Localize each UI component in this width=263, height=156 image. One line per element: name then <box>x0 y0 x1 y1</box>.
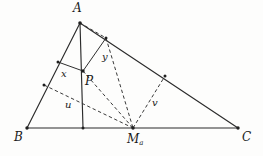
label-segment-u: u <box>65 100 71 110</box>
label-midpoint-ma: Ma <box>127 133 143 147</box>
dashed-footAC-to-Ma-line <box>106 38 133 128</box>
foot-altitude-on-BC-dot <box>82 127 85 130</box>
label-point-p: P <box>85 75 93 87</box>
segment-u-line <box>44 85 133 128</box>
foot-v-on-AC-dot <box>164 75 167 78</box>
label-segment-v: v <box>152 98 158 108</box>
segment-v-line <box>133 76 165 128</box>
side-AB-line <box>27 23 80 128</box>
side-AC-line <box>80 23 238 128</box>
label-vertex-a: A <box>73 2 82 14</box>
foot-x-on-AB-dot <box>57 61 60 64</box>
point-Ma-dot <box>131 126 134 129</box>
point-P-dot <box>81 69 84 72</box>
foot-y-on-AC-dot <box>105 37 108 40</box>
geometry-figure: A B C P Ma x y u v <box>0 0 263 156</box>
label-midpoint-ma-base: M <box>127 132 139 146</box>
label-segment-x: x <box>61 69 67 79</box>
label-vertex-c: C <box>242 131 251 143</box>
altitude-from-A-line <box>80 23 83 128</box>
label-segment-y: y <box>102 52 108 62</box>
foot-u-on-AB-dot <box>43 84 46 87</box>
point-B-dot <box>25 126 28 129</box>
label-vertex-b: B <box>14 131 23 143</box>
point-C-dot <box>236 126 239 129</box>
label-midpoint-ma-subscript: a <box>139 139 143 147</box>
point-A-dot <box>78 21 82 25</box>
